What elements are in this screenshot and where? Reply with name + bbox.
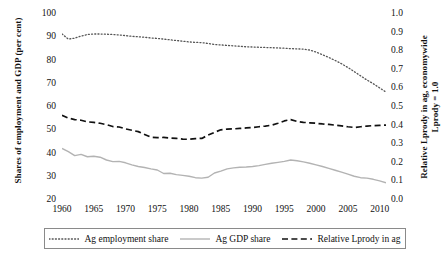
y-axis-right-tick-label: 0.4	[391, 120, 417, 130]
legend-item-label: Relative Lprody in ag	[317, 234, 400, 244]
chart-figure: Shares of employment and GDP (per cent) …	[0, 0, 445, 257]
x-axis-tick-label: 1965	[77, 204, 111, 214]
y-axis-left-tick-label: 90	[30, 31, 56, 41]
y-axis-left-tick-label: 30	[30, 171, 56, 181]
series-line-0	[62, 34, 386, 92]
y-axis-left-tick-label: 20	[30, 194, 56, 204]
legend-item[interactable]: Ag GDP share	[174, 234, 276, 244]
y-axis-right-title: Relative Lprody in ag, economywide Lprod…	[419, 22, 441, 192]
x-axis-tick-label: 1960	[45, 204, 79, 214]
series-line-2	[62, 115, 386, 139]
y-axis-right-tick-label: 0.5	[391, 101, 417, 111]
y-axis-right-tick-label: 0.0	[391, 194, 417, 204]
series-line-1	[62, 148, 386, 182]
y-axis-right-tick-label: 0.3	[391, 138, 417, 148]
legend-swatch-solid	[180, 235, 210, 243]
x-axis-tick-label: 1995	[267, 204, 301, 214]
y-axis-left-tick-label: 70	[30, 78, 56, 88]
x-axis-tick-label: 1975	[140, 204, 174, 214]
y-axis-right-tick-label: 0.7	[391, 64, 417, 74]
plot-area	[62, 14, 386, 200]
legend-item-label: Ag GDP share	[215, 234, 270, 244]
y-axis-right-tick-label: 0.2	[391, 157, 417, 167]
y-axis-right-tick-label: 0.8	[391, 45, 417, 55]
legend-swatch-dashed	[282, 235, 312, 243]
legend-item[interactable]: Ag employment share	[43, 234, 174, 244]
x-axis-tick-label: 2010	[363, 204, 397, 214]
y-axis-right-tick-label: 0.1	[391, 175, 417, 185]
x-axis-tick-label: 1980	[172, 204, 206, 214]
x-axis-tick-label: 1985	[204, 204, 238, 214]
y-axis-right-tick-label: 0.6	[391, 82, 417, 92]
legend-swatch-dotted	[49, 235, 79, 243]
legend-item[interactable]: Relative Lprody in ag	[276, 234, 406, 244]
legend-item-label: Ag employment share	[84, 234, 168, 244]
x-axis-tick-label: 2000	[299, 204, 333, 214]
x-axis-tick-label: 1990	[236, 204, 270, 214]
x-axis-tick-label: 1970	[109, 204, 143, 214]
y-axis-right-tick-label: 1.0	[391, 8, 417, 18]
y-axis-left-tick-label: 100	[30, 8, 56, 18]
y-axis-left-tick-label: 40	[30, 148, 56, 158]
y-axis-right-tick-label: 0.9	[391, 27, 417, 37]
chart-legend: Ag employment shareAg GDP shareRelative …	[44, 228, 406, 249]
x-axis-tick-label: 2005	[331, 204, 365, 214]
plot-svg	[62, 14, 386, 200]
y-axis-left-tick-label: 60	[30, 101, 56, 111]
y-axis-left-tick-label: 50	[30, 124, 56, 134]
y-axis-left-title: Shares of employment and GDP (per cent)	[13, 16, 24, 186]
y-axis-left-tick-label: 80	[30, 55, 56, 65]
